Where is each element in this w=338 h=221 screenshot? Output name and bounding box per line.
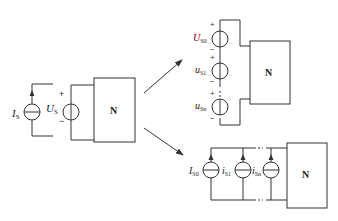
- arrow-up-icon: [269, 154, 274, 160]
- current-parallel-circuit: IS0 iS1 iSn N: [188, 143, 327, 208]
- voltage-source-us: + − US: [46, 85, 95, 140]
- minus-sign: −: [210, 114, 215, 123]
- label-usn: uSn: [195, 100, 206, 112]
- voltage-source-usn: + − uSn: [195, 89, 228, 123]
- plus-sign: +: [210, 20, 215, 29]
- arrow-up-icon: [241, 154, 246, 160]
- label-is0: IS0: [188, 165, 199, 177]
- label-us0: US0: [193, 32, 207, 44]
- label-is1: iS1: [222, 165, 231, 177]
- arrow-to-current-parallel-icon: [144, 128, 183, 155]
- circuit-diagram: IS + − US N + − US0: [0, 0, 338, 221]
- current-source-is0: IS0: [188, 148, 219, 200]
- voltage-series-circuit: + − US0 + − uS1 + − uSn N: [193, 20, 290, 125]
- plus-sign: +: [59, 89, 64, 99]
- label-isn: iSn: [252, 165, 261, 177]
- label-us: US: [46, 102, 58, 116]
- current-source-is1: iS1: [222, 148, 251, 200]
- minus-sign: −: [59, 116, 64, 126]
- arrow-up-icon: [30, 90, 35, 96]
- plus-sign: +: [210, 53, 215, 62]
- network-label: N: [110, 105, 118, 116]
- label-is: IS: [11, 107, 20, 121]
- voltage-source-us1: + − uS1: [195, 53, 228, 86]
- arrow-to-voltage-series-icon: [144, 60, 182, 93]
- network-label: N: [265, 67, 273, 78]
- network-label: N: [302, 169, 310, 180]
- plus-sign: +: [210, 89, 215, 98]
- arrow-up-icon: [209, 154, 214, 160]
- label-us1: uS1: [195, 64, 206, 76]
- voltage-source-us0: + − US0: [193, 20, 228, 54]
- current-source-isn: iSn: [252, 148, 279, 200]
- minus-sign: −: [210, 77, 215, 86]
- original-circuit: IS + − US N: [11, 78, 135, 142]
